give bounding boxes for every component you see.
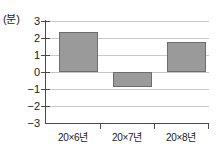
x-label-20x6: 20×6년 [46, 132, 100, 144]
gridline-neg-2 [46, 106, 209, 107]
x-axis-category-labels: 20×6년 20×7년 20×8년 [46, 132, 209, 152]
x-tick-mark-3 [208, 123, 209, 129]
y-tick-mark-neg-2 [41, 106, 50, 107]
bar-20x6 [59, 32, 98, 72]
gridline-3 [46, 21, 209, 22]
y-tick-label-neg-3: −3 [18, 118, 40, 129]
y-tick-label-0: 0 [18, 67, 40, 78]
y-tick-label-1: 1 [18, 50, 40, 61]
gridline-neg-1 [46, 89, 209, 90]
bar-20x8 [167, 42, 206, 72]
y-tick-mark-2 [41, 38, 50, 39]
x-tick-mark-2 [154, 123, 155, 129]
plot-area [46, 21, 209, 123]
bar-chart: (분) 3 2 1 0 −1 −2 −3 20×6년 [0, 0, 216, 159]
y-tick-label-neg-2: −2 [18, 101, 40, 112]
y-tick-label-3: 3 [18, 16, 40, 27]
y-tick-mark-neg-1 [41, 89, 50, 90]
x-tick-mark-1 [100, 123, 101, 129]
y-tick-label-2: 2 [18, 33, 40, 44]
x-label-20x7: 20×7년 [100, 132, 154, 144]
bar-20x7 [113, 72, 152, 87]
y-tick-mark-0 [41, 72, 50, 73]
y-tick-label-neg-1: −1 [18, 84, 40, 95]
y-tick-mark-1 [41, 55, 50, 56]
y-tick-mark-3 [41, 21, 50, 22]
x-axis-line [45, 123, 209, 124]
y-axis-tick-labels: 3 2 1 0 −1 −2 −3 [14, 21, 40, 123]
x-label-20x8: 20×8년 [154, 132, 208, 144]
